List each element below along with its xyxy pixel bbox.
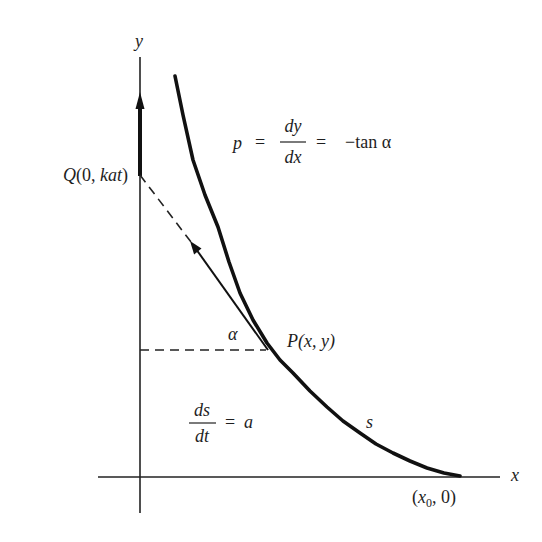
slope-equation: p = dy dx = −tan α xyxy=(231,116,392,167)
speed-denominator: dt xyxy=(195,426,210,446)
angle-alpha-label: α xyxy=(228,324,238,344)
point-p-label: P(x, y) xyxy=(286,331,335,352)
slope-numerator: dy xyxy=(285,116,302,136)
y-axis-label: y xyxy=(133,31,143,51)
diagram-canvas: y x Q(0, kat) p = dy dx = −tan α α P(x, … xyxy=(0,0,542,542)
slope-denominator: dx xyxy=(285,147,302,167)
slope-eq2: = xyxy=(316,132,326,152)
slope-eq1: = xyxy=(255,132,265,152)
point-x0-variable: x xyxy=(417,487,426,507)
point-x0-label: (x0, 0) xyxy=(412,487,456,510)
tangent-dashed-extension xyxy=(140,175,191,242)
pursuit-curve-diagram: y x Q(0, kat) p = dy dx = −tan α α P(x, … xyxy=(0,0,542,542)
point-p-coords: (x, y) xyxy=(298,331,335,352)
x-axis-label: x xyxy=(510,465,519,485)
point-q-label: Q(0, kat) xyxy=(63,165,128,186)
speed-numerator: ds xyxy=(194,400,210,420)
point-q-close: ) xyxy=(122,165,128,186)
speed-equation: ds dt = a xyxy=(189,400,253,446)
q-velocity-arrowhead-icon xyxy=(136,92,145,109)
point-p-name: P xyxy=(286,331,298,351)
slope-lhs: p xyxy=(231,133,242,153)
point-q-open: (0, xyxy=(76,165,100,186)
speed-eq: = xyxy=(225,412,235,432)
speed-rhs: a xyxy=(244,412,253,432)
point-q-name: Q xyxy=(63,165,76,185)
arc-length-label: s xyxy=(366,412,373,432)
point-q-coord: kat xyxy=(100,165,123,185)
slope-rhs: −tan α xyxy=(345,132,392,152)
point-x0-close: , 0) xyxy=(432,487,456,508)
tangent-arrowhead-icon xyxy=(190,241,202,254)
